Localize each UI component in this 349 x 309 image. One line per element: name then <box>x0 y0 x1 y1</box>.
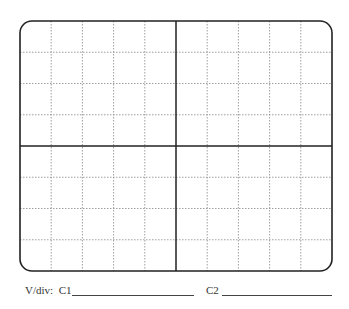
oscilloscope-graticule <box>0 0 349 280</box>
vdiv-label: V/div: C1 <box>25 284 71 296</box>
c1-label: C1 <box>59 284 72 296</box>
c1-blank-line[interactable] <box>72 295 194 296</box>
c2-label: C2 <box>206 284 219 296</box>
c2-blank-line[interactable] <box>222 295 332 296</box>
